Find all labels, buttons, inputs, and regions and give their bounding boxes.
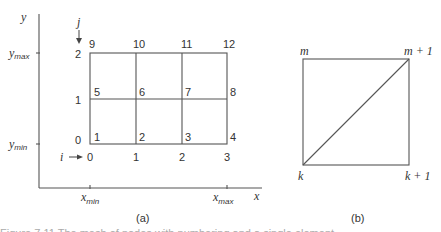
node-label-5: 5 xyxy=(94,86,100,98)
mesh-grid xyxy=(90,53,227,144)
node-label-4: 4 xyxy=(230,131,236,143)
panel-b-caption: (b) xyxy=(351,212,364,224)
corner-label-k-plus-1: k + 1 xyxy=(405,169,430,183)
element-square xyxy=(303,59,409,165)
node-label-10: 10 xyxy=(133,38,145,50)
diagram-canvas: y x ymax ymin xmin xmax j 2 1 0 i 0 1 2 … xyxy=(0,0,441,232)
i-index-label: i xyxy=(60,150,63,164)
node-label-3: 3 xyxy=(185,131,191,143)
node-label-1: 1 xyxy=(94,131,100,143)
j-arrow-icon xyxy=(76,30,82,44)
y-max-label: ymax xyxy=(8,46,30,61)
corner-label-k: k xyxy=(298,169,304,183)
corner-label-m-plus-1: m + 1 xyxy=(404,44,433,58)
node-label-11: 11 xyxy=(181,38,192,50)
node-label-12: 12 xyxy=(223,38,235,50)
i-arrow-icon xyxy=(69,155,83,160)
node-label-7: 7 xyxy=(185,86,191,98)
y-min-label: ymin xyxy=(8,137,28,152)
corner-label-m: m xyxy=(300,44,309,58)
i-index-2: 2 xyxy=(179,151,185,163)
y-axis-label: y xyxy=(20,10,27,24)
panel-a-caption: (a) xyxy=(136,212,149,224)
x-min-label: xmin xyxy=(80,190,100,206)
i-index-3: 3 xyxy=(224,151,230,163)
j-index-0: 0 xyxy=(75,134,81,146)
node-label-2: 2 xyxy=(139,131,145,143)
figure-caption-partial: Figure 7.11 The mesh of nodes with numbe… xyxy=(0,227,441,232)
i-index-1: 1 xyxy=(133,151,139,163)
node-label-9: 9 xyxy=(89,38,95,50)
i-index-0: 0 xyxy=(87,151,93,163)
x-axis-label: x xyxy=(253,189,260,203)
j-index-2: 2 xyxy=(75,48,81,60)
j-index-label: j xyxy=(75,15,81,29)
j-index-1: 1 xyxy=(75,94,81,106)
element-diagonal xyxy=(303,59,409,165)
node-label-8: 8 xyxy=(230,86,236,98)
x-max-label: xmax xyxy=(212,190,234,206)
node-label-6: 6 xyxy=(139,86,145,98)
